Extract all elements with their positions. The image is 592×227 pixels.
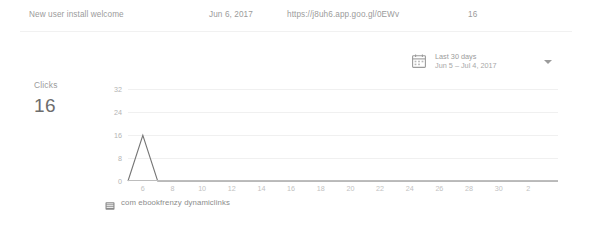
- x-axis-tick-label: 16: [287, 184, 295, 193]
- x-axis-tick-label: 22: [376, 184, 384, 193]
- row-click-count: 16: [468, 10, 477, 19]
- row-date: Jun 6, 2017: [209, 10, 253, 19]
- x-axis-tick-label: 26: [435, 184, 443, 193]
- date-range-value: Jun 5 – Jul 4, 2017: [435, 61, 497, 70]
- x-axis-tick-label: 24: [406, 184, 414, 193]
- x-axis-tick-label: 20: [346, 184, 354, 193]
- y-axis-tick-label: 24: [104, 108, 122, 117]
- y-axis-tick-label: 16: [104, 131, 122, 140]
- chevron-down-icon[interactable]: [544, 60, 552, 64]
- y-axis-tick-label: 0: [104, 177, 122, 186]
- row-divider: [20, 31, 572, 32]
- x-axis-tick-label: 30: [495, 184, 503, 193]
- chart-legend[interactable]: com ebookfrenzy dynamiclinks: [105, 197, 230, 207]
- row-short-url[interactable]: https://j8uh6.app.goo.gl/0EWv: [287, 10, 399, 19]
- chart-series-line: [128, 78, 558, 181]
- clicks-summary: Clicks 16: [34, 80, 58, 117]
- clicks-line-chart: 08162432 6810121416182022242628302: [104, 78, 564, 190]
- chart-plot-area: [128, 78, 558, 181]
- y-axis-tick-label: 8: [104, 154, 122, 163]
- clicks-label: Clicks: [34, 80, 58, 90]
- x-axis-tick-label: 6: [141, 184, 145, 193]
- x-axis-tick-label: 8: [170, 184, 174, 193]
- android-app-icon: [105, 197, 115, 207]
- calendar-icon: [412, 54, 426, 68]
- y-axis-tick-label: 32: [104, 85, 122, 94]
- date-range-label: Last 30 days: [435, 52, 476, 61]
- x-axis-line: [128, 180, 558, 181]
- x-axis-tick-label: 18: [317, 184, 325, 193]
- chart-legend-label: com ebookfrenzy dynamiclinks: [121, 198, 230, 207]
- x-axis-tick-label: 14: [257, 184, 265, 193]
- x-axis-tick-label: 2: [526, 184, 530, 193]
- link-table-row[interactable]: New user install welcome Jun 6, 2017 htt…: [0, 0, 592, 31]
- x-axis-tick-label: 10: [198, 184, 206, 193]
- x-axis-tick-label: 12: [228, 184, 236, 193]
- date-range-picker[interactable]: Last 30 days Jun 5 – Jul 4, 2017: [408, 50, 560, 76]
- clicks-value: 16: [34, 95, 58, 117]
- x-axis-tick-label: 28: [465, 184, 473, 193]
- row-link-title: New user install welcome: [29, 10, 124, 19]
